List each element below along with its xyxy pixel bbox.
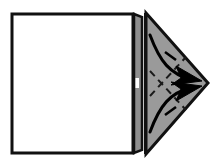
origami-diagram-canvas [0,0,219,164]
origami-diagram-figure [0,0,219,164]
spine-crease-highlight [136,78,140,88]
main-paper-sheet [12,14,133,153]
